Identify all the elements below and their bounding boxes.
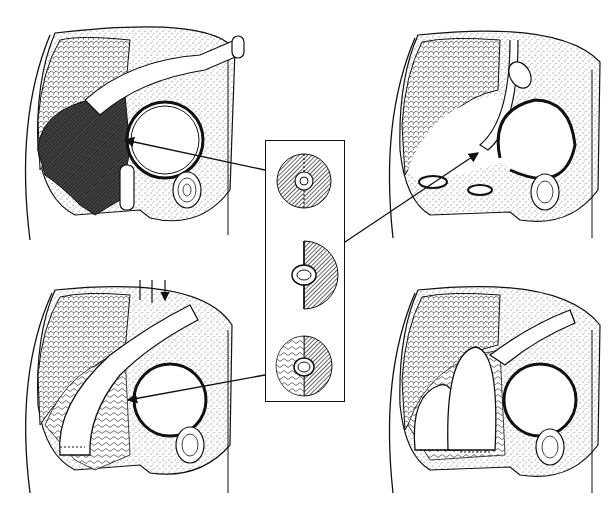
inset-detail-2 [292, 241, 338, 309]
pelvis-section-bottom-left [0, 255, 260, 505]
inset-detail-1 [277, 154, 331, 208]
pelvis-section-top-left [0, 0, 260, 250]
pelvis-section-top-right [360, 0, 614, 250]
detail-inset-panel [265, 140, 345, 402]
inset-detail-3 [276, 336, 332, 396]
pelvis-section-bottom-right [360, 255, 614, 505]
